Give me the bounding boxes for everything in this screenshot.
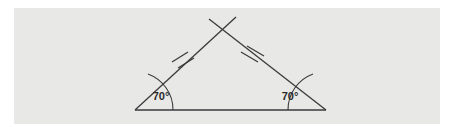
right-side-tick-mark-1 [241, 52, 258, 62]
left-side-tick-mark-2 [178, 58, 194, 68]
left-angle-label: 70° [153, 90, 170, 102]
triangle-right-side-line [209, 19, 326, 110]
figure-root: 70° 70° [0, 0, 453, 131]
right-angle-label: 70° [282, 90, 299, 102]
left-side-tick-mark-1 [172, 52, 188, 62]
triangle-diagram-svg: 70° 70° [0, 0, 453, 131]
